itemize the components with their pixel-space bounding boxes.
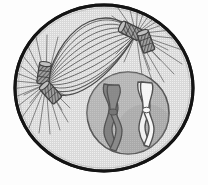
cell-diagram-figure: Animal cell in prophase of mitosis cell …	[0, 0, 208, 185]
animal-cell-mitosis-illustration	[0, 0, 208, 185]
